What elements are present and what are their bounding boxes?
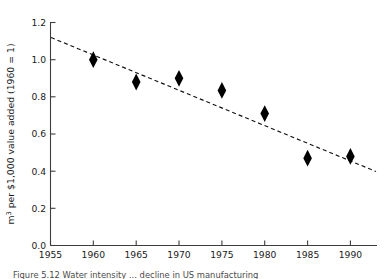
y-tick-label: 0.8 [31,91,46,102]
svg-text:m3 per $1,000 value added (196: m3 per $1,000 value added (1960 = 1) [5,43,16,224]
x-tick-label: 1985 [296,249,320,260]
x-tick-label: 1970 [167,249,191,260]
x-tick-label: 1990 [339,249,363,260]
chart-background [0,0,389,279]
figure-caption-text: Figure 5.12 Water intensity ... decline … [13,270,258,279]
y-axis-title-suffix: per $1,000 value added (1960 = 1) [5,43,16,211]
y-tick-label: 1.0 [31,54,46,65]
scatter-chart: 1.2 1.0 0.8 0.6 0.4 0.2 0.0 m3 per $1,00… [0,0,389,279]
figure-container: 1.2 1.0 0.8 0.6 0.4 0.2 0.0 m3 per $1,00… [0,0,389,279]
x-tick-label: 1965 [125,249,149,260]
figure-caption: Figure 5.12 Water intensity ... decline … [13,270,258,279]
y-tick-label: 0.6 [31,128,46,139]
x-tick-label: 1980 [253,249,277,260]
y-axis-title-prefix: m [5,215,16,224]
y-tick-label: 1.2 [31,17,46,28]
x-tick-label: 1960 [82,249,106,260]
x-tick-label: 1955 [39,249,63,260]
y-tick-label: 0.4 [31,166,46,177]
y-axis-title: m3 per $1,000 value added (1960 = 1) [5,43,16,224]
y-tick-label: 0.2 [31,203,46,214]
x-tick-label: 1975 [210,249,234,260]
